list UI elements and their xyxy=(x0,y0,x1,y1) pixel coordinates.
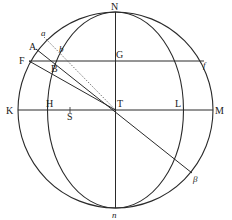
label-N: N xyxy=(111,1,118,12)
label-L: L xyxy=(175,98,181,109)
geometry-diagram: N n K M H S T L G F f A a B b β xyxy=(0,0,232,220)
label-f: f xyxy=(203,60,207,70)
line-A-beta xyxy=(36,49,192,173)
label-G: G xyxy=(116,49,123,60)
label-a: a xyxy=(41,28,46,38)
label-S: S xyxy=(67,111,73,122)
label-b: b xyxy=(59,44,64,54)
label-M: M xyxy=(215,105,224,116)
label-K: K xyxy=(6,105,14,116)
label-beta: β xyxy=(192,174,198,184)
label-n: n xyxy=(112,210,117,220)
label-H: H xyxy=(46,98,53,109)
label-B: B xyxy=(51,63,58,74)
line-F-T xyxy=(29,61,116,110)
label-A: A xyxy=(29,41,37,52)
label-F: F xyxy=(19,55,25,66)
label-T: T xyxy=(117,98,123,109)
